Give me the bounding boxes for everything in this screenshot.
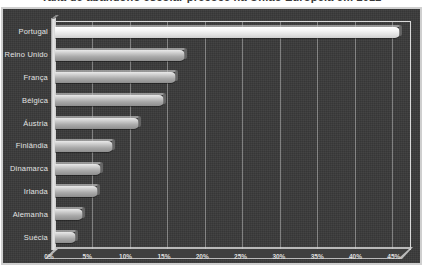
bar-row bbox=[55, 112, 139, 135]
bar-alemanha[interactable] bbox=[55, 209, 83, 220]
gridline-25 bbox=[242, 21, 243, 249]
gridline-45 bbox=[392, 21, 393, 249]
bar-row bbox=[55, 203, 83, 226]
x-tick-45: 45% bbox=[387, 253, 400, 260]
category-label-bélgica: Bélgica bbox=[22, 97, 48, 105]
x-tick-0: 0% bbox=[44, 253, 53, 260]
bar-row bbox=[55, 44, 185, 67]
category-label-irlanda: Irlanda bbox=[24, 188, 48, 196]
bar-row bbox=[55, 21, 400, 44]
x-tick-40: 40% bbox=[349, 253, 362, 260]
bar-finlândia[interactable] bbox=[55, 141, 113, 152]
x-tick-15: 15% bbox=[157, 253, 170, 260]
x-tick-30: 30% bbox=[272, 253, 285, 260]
chart-title: Taxa de abandono escolar precoce na Uniã… bbox=[41, 0, 381, 3]
category-label-finlândia: Finlândia bbox=[16, 142, 48, 150]
gridline-40 bbox=[355, 21, 356, 249]
bar-bélgica[interactable] bbox=[55, 95, 164, 106]
gridline-20 bbox=[205, 21, 206, 249]
x-tick-20: 20% bbox=[196, 253, 209, 260]
category-label-dinamarca: Dinamarca bbox=[10, 165, 48, 173]
x-tick-25: 25% bbox=[234, 253, 247, 260]
chart-title-strip: Taxa de abandono escolar precoce na Uniã… bbox=[0, 0, 423, 7]
x-tick-5: 5% bbox=[83, 253, 92, 260]
x-tick-10: 10% bbox=[119, 253, 132, 260]
bar-reino-unido[interactable] bbox=[55, 50, 185, 61]
chart-panel: PortugalReino UnidoFrançaBélgicaÁustriaF… bbox=[1, 7, 422, 265]
x-tick-35: 35% bbox=[311, 253, 324, 260]
gridline-30 bbox=[280, 21, 281, 249]
bar-irlanda[interactable] bbox=[55, 186, 98, 197]
category-label-suécia: Suécia bbox=[24, 234, 48, 242]
bar-row bbox=[55, 67, 176, 90]
bar-frança[interactable] bbox=[55, 72, 176, 83]
category-label-áustria: Áustria bbox=[23, 120, 48, 128]
bar-row bbox=[55, 89, 164, 112]
bar-row bbox=[55, 135, 113, 158]
bar-suécia[interactable] bbox=[55, 232, 76, 243]
category-label-portugal: Portugal bbox=[18, 28, 48, 36]
bar-row bbox=[55, 158, 101, 181]
category-label-reino-unido: Reino Unido bbox=[5, 51, 48, 59]
bar-portugal[interactable] bbox=[55, 27, 400, 38]
category-label-alemanha: Alemanha bbox=[13, 211, 48, 219]
gridline-35 bbox=[317, 21, 318, 249]
bar-áustria[interactable] bbox=[55, 118, 139, 129]
bar-row bbox=[55, 226, 76, 249]
chart-screenshot: Taxa de abandono escolar precoce na Uniã… bbox=[0, 0, 423, 265]
bar-row bbox=[55, 181, 98, 204]
plot-area bbox=[55, 21, 411, 249]
category-label-frança: França bbox=[23, 74, 48, 82]
bar-dinamarca[interactable] bbox=[55, 164, 101, 175]
